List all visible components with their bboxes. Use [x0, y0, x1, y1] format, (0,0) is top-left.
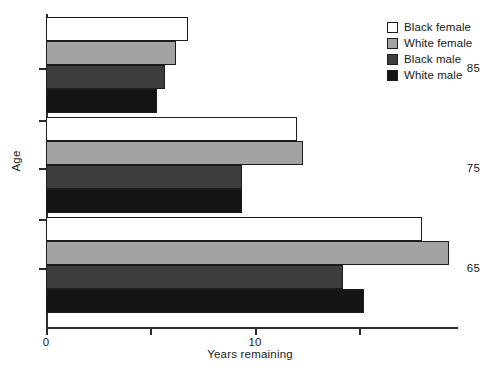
x-axis-tick-0	[46, 328, 48, 335]
x-axis-line	[46, 327, 458, 329]
legend-label-white-female: White female	[404, 37, 472, 49]
y-axis-label-65: 65	[446, 262, 480, 274]
bar-65-black-male	[46, 265, 343, 289]
x-axis-label-10: 10	[240, 336, 270, 348]
bar-85-white-female	[46, 41, 176, 65]
bar-75-black-female	[46, 117, 297, 141]
legend-label-white-male: White male	[404, 69, 463, 81]
bar-65-white-male	[46, 289, 364, 313]
legend-label-black-female: Black female	[404, 21, 471, 33]
bar-85-white-male	[46, 89, 157, 113]
legend-item-white-male: White male	[387, 67, 472, 83]
bar-85-black-female	[46, 17, 188, 41]
x-axis-minor-tick-5	[150, 328, 152, 335]
legend-swatch-white-male	[387, 70, 398, 81]
legend-item-black-female: Black female	[387, 19, 472, 35]
legend-swatch-black-male	[387, 54, 398, 65]
legend-swatch-white-female	[387, 38, 398, 49]
bar-75-black-male	[46, 165, 242, 189]
bar-chart: 85 75 65 0 10 Age Years remaining Black …	[0, 0, 480, 371]
bar-75-white-male	[46, 189, 242, 213]
legend-swatch-black-female	[387, 22, 398, 33]
x-axis-label-0: 0	[31, 336, 61, 348]
y-axis-tick-75	[39, 168, 46, 170]
y-axis-minor-tick-1	[39, 120, 46, 122]
legend: Black female White female Black male Whi…	[387, 19, 472, 83]
y-axis-tick-85	[39, 68, 46, 70]
x-axis-title: Years remaining	[0, 348, 480, 360]
legend-item-black-male: Black male	[387, 51, 472, 67]
bar-65-white-female	[46, 241, 449, 265]
x-axis-minor-tick-15	[359, 328, 361, 335]
bar-65-black-female	[46, 217, 422, 241]
y-axis-title: Age	[10, 131, 22, 191]
bar-75-white-female	[46, 141, 303, 165]
y-axis-label-75: 75	[446, 162, 480, 174]
legend-label-black-male: Black male	[404, 53, 461, 65]
y-axis-minor-tick-2	[39, 219, 46, 221]
legend-item-white-female: White female	[387, 35, 472, 51]
bar-85-black-male	[46, 65, 165, 89]
x-axis-tick-10	[255, 328, 257, 335]
y-axis-tick-65	[39, 268, 46, 270]
